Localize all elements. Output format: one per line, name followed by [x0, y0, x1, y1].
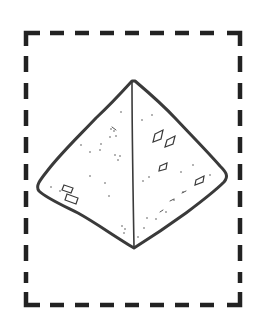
pyramid-drawing [0, 0, 259, 319]
stone-texture-dashes [112, 127, 186, 212]
pyramid-outline [38, 81, 227, 248]
